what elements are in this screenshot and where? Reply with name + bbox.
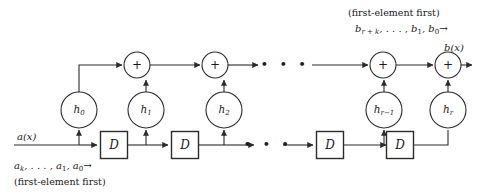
- coeff-circle-h2: [206, 92, 242, 128]
- adder-circle-4: [435, 52, 461, 78]
- adder-circle-3: [370, 52, 396, 78]
- coeff-circle-hr-1: [366, 92, 402, 128]
- input-stream-sequence: ak, . . . , a1, a0→: [14, 160, 92, 174]
- wire-h0-to-adder1: [79, 65, 122, 92]
- input-stream-note: (first-element first): [14, 176, 106, 188]
- delay-box-3: [317, 132, 344, 159]
- coeff-circle-h1: [128, 92, 164, 128]
- output-stream-sequence: br + k, . . . , b1, b0→: [355, 23, 448, 37]
- ellipsis-bottom: • • •: [244, 137, 293, 152]
- coeff-circle-hr: [430, 92, 466, 128]
- adder-circle-2: [202, 52, 228, 78]
- delay-box-4: [387, 132, 414, 159]
- output-signal-label: b(x): [444, 42, 464, 55]
- input-signal-label: a(x): [17, 131, 36, 144]
- output-stream-note: (first-element first): [348, 7, 440, 19]
- ellipsis-top: • • •: [261, 57, 310, 72]
- delay-box-1: [101, 132, 128, 159]
- wire-delay4-to-hr: [414, 130, 448, 145]
- coeff-circle-h0: [61, 92, 97, 128]
- delay-box-2: [172, 132, 199, 159]
- adder-circle-1: [124, 52, 150, 78]
- fir-filter-diagram: + + + + h0 h1 h2 hr−1 hr D D D D • • • •…: [0, 0, 478, 194]
